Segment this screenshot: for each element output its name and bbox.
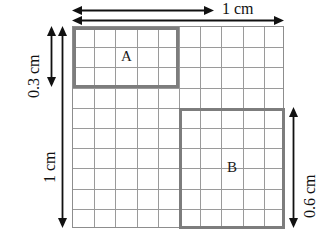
rectangle-a-label: A — [121, 49, 132, 64]
right-dimension-arrow — [288, 107, 299, 228]
left-short-dimension-label: 0.3 cm — [26, 54, 42, 98]
left-full-dimension-arrow — [57, 26, 68, 228]
measurement-grid: A B — [72, 26, 284, 228]
right-dimension-label: 0.6 cm — [302, 174, 318, 218]
top-dimension-label: 1 cm — [222, 1, 254, 17]
rectangle-b-label: B — [227, 160, 237, 175]
left-short-dimension-arrow — [46, 26, 57, 87]
grid-horizontal-line — [73, 88, 283, 89]
grid-diagram: 1 cm 0.3 cm 1 cm 0.6 cm A B — [0, 0, 323, 243]
left-full-dimension-label: 1 cm — [42, 151, 58, 183]
